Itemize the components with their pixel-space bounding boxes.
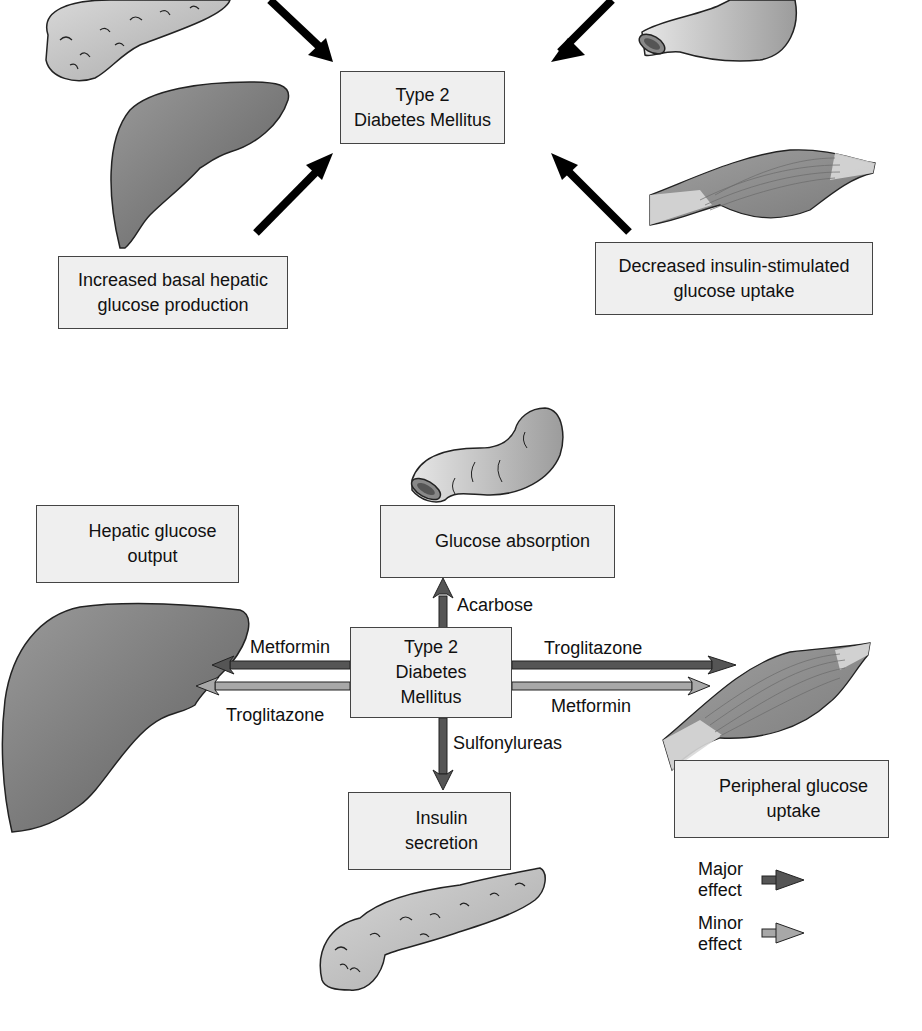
bottom-center-line2: Diabetes [395, 660, 466, 685]
top-center-line1: Type 2 [354, 83, 491, 108]
muscle-cause-box: Decreased insulin-stimulated glucose upt… [595, 242, 873, 315]
pancreas-icon [46, 0, 230, 81]
liver-icon [2, 604, 248, 832]
glucose-absorption-box: Glucose absorption [380, 505, 615, 578]
top-center-line2: Diabetes Mellitus [354, 108, 491, 133]
liver-cause-line1: Increased basal hepatic [78, 268, 268, 293]
hepatic-output-line2: output [88, 544, 216, 569]
bottom-center-line1: Type 2 [395, 635, 466, 660]
legend-major-line1: Major [698, 859, 743, 879]
label-troglitazone-muscle: Troglitazone [544, 637, 642, 659]
hepatic-output-box: Hepatic glucose output [36, 505, 239, 583]
insulin-secretion-box: Insulin secretion [348, 792, 511, 870]
insulin-secretion-line2: secretion [405, 831, 478, 856]
peripheral-uptake-line1: Peripheral glucose [719, 774, 868, 799]
legend-arrows [762, 870, 804, 943]
legend-minor-line1: Minor [698, 913, 743, 933]
legend-minor-line2: effect [698, 934, 742, 954]
label-acarbose: Acarbose [457, 594, 533, 616]
muscle-icon [650, 150, 875, 225]
insulin-secretion-line1: Insulin [405, 806, 478, 831]
bottom-center-line3: Mellitus [395, 685, 466, 710]
muscle-cause-line2: glucose uptake [618, 279, 849, 304]
intestine-icon [636, 0, 796, 61]
label-metformin-muscle: Metformin [551, 695, 631, 717]
legend-minor-label: Minor effect [698, 913, 743, 955]
legend-major-label: Major effect [698, 859, 743, 901]
peripheral-uptake-box: Peripheral glucose uptake [674, 760, 889, 838]
label-troglitazone-liver: Troglitazone [226, 704, 324, 726]
legend-major-line2: effect [698, 880, 742, 900]
intestine-icon [408, 408, 563, 504]
label-sulfonylureas: Sulfonylureas [453, 732, 562, 754]
liver-cause-box: Increased basal hepatic glucose producti… [58, 256, 288, 329]
peripheral-uptake-line2: uptake [719, 799, 868, 824]
glucose-absorption-line1: Glucose absorption [435, 529, 590, 554]
label-metformin-liver: Metformin [250, 636, 330, 658]
muscle-cause-line1: Decreased insulin-stimulated [618, 254, 849, 279]
bottom-center-box: Type 2 Diabetes Mellitus [350, 627, 512, 718]
pancreas-icon [320, 868, 545, 990]
hepatic-output-line1: Hepatic glucose [88, 519, 216, 544]
top-center-box: Type 2 Diabetes Mellitus [340, 71, 505, 144]
liver-cause-line2: glucose production [78, 293, 268, 318]
